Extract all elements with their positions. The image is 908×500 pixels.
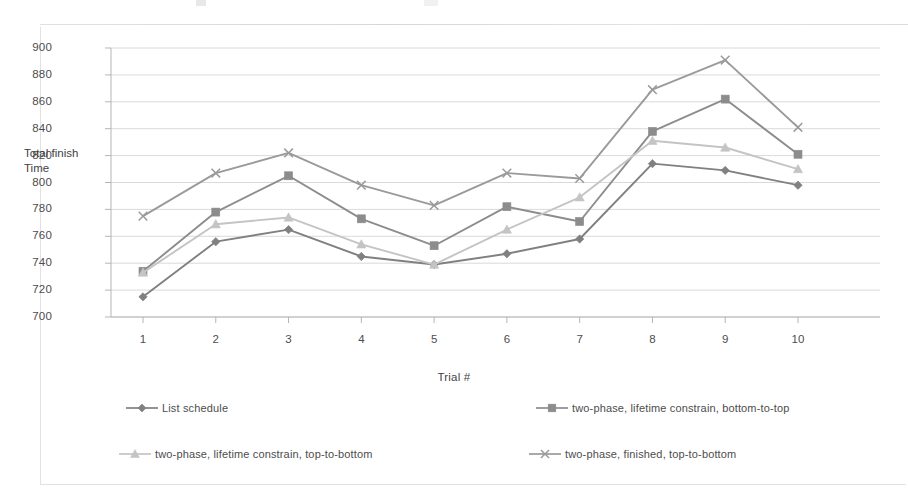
legend-item-3[interactable]: two-phase, finished, top-to-bottom bbox=[528, 448, 736, 460]
x-tick-label: 9 bbox=[705, 333, 745, 345]
data-point-square bbox=[548, 404, 556, 412]
data-point-diamond bbox=[357, 252, 365, 260]
legend-item-0[interactable]: List schedule bbox=[125, 402, 228, 414]
data-point-square bbox=[212, 208, 220, 216]
x-tick-label: 8 bbox=[632, 333, 672, 345]
series-line bbox=[143, 141, 798, 273]
series-line bbox=[143, 99, 798, 271]
data-point-square bbox=[503, 203, 511, 211]
chart-page: 700720740760780800820840860880900 123456… bbox=[0, 0, 908, 500]
series-3 bbox=[139, 56, 803, 221]
series-line bbox=[143, 164, 798, 297]
legend-label: two-phase, lifetime constrain, bottom-to… bbox=[569, 402, 790, 414]
gridlines bbox=[111, 48, 880, 317]
x-tick-label: 3 bbox=[269, 333, 309, 345]
data-point-diamond bbox=[284, 225, 292, 233]
legend-label: two-phase, finished, top-to-bottom bbox=[562, 448, 736, 460]
data-point-cross bbox=[139, 212, 148, 221]
series-line bbox=[143, 60, 798, 216]
legend-item-1[interactable]: two-phase, lifetime constrain, bottom-to… bbox=[535, 402, 790, 414]
y-axis-title-line1: Total finish bbox=[24, 146, 102, 161]
data-point-square bbox=[648, 127, 656, 135]
x-tick-label: 1 bbox=[123, 333, 163, 345]
data-point-diamond bbox=[138, 404, 146, 412]
x-axis-title: Trial # bbox=[0, 371, 908, 383]
y-tick-label: 800 bbox=[8, 176, 52, 188]
y-tick-label: 740 bbox=[8, 256, 52, 268]
series-0 bbox=[139, 159, 802, 301]
data-point-square bbox=[576, 218, 584, 226]
x-tick-label: 10 bbox=[778, 333, 818, 345]
x-tick-label: 2 bbox=[196, 333, 236, 345]
data-point-square bbox=[721, 95, 729, 103]
y-axis-title: Total finish Time bbox=[24, 146, 102, 176]
x-tick-label: 7 bbox=[560, 333, 600, 345]
data-point-diamond bbox=[503, 250, 511, 258]
y-tick-label: 900 bbox=[8, 41, 52, 53]
legend-item-2[interactable]: two-phase, lifetime constrain, top-to-bo… bbox=[118, 448, 373, 460]
data-point-square bbox=[794, 150, 802, 158]
x-tick-label: 5 bbox=[414, 333, 454, 345]
chart-legend: List scheduletwo-phase, lifetime constra… bbox=[0, 396, 908, 486]
y-tick-marks bbox=[105, 48, 111, 317]
series-1 bbox=[139, 95, 802, 275]
y-tick-label: 780 bbox=[8, 202, 52, 214]
data-point-cross bbox=[721, 56, 730, 65]
data-point-cross bbox=[648, 85, 657, 94]
legend-key-triangle-icon bbox=[118, 448, 152, 460]
y-tick-label: 840 bbox=[8, 122, 52, 134]
y-tick-label: 880 bbox=[8, 68, 52, 80]
x-tick-marks bbox=[143, 317, 798, 323]
y-tick-label: 720 bbox=[8, 283, 52, 295]
legend-key-cross-icon bbox=[528, 448, 562, 460]
data-point-diamond bbox=[721, 166, 729, 174]
x-tick-label: 4 bbox=[341, 333, 381, 345]
data-point-cross bbox=[794, 123, 803, 132]
series-2 bbox=[138, 136, 802, 276]
x-tick-label: 6 bbox=[487, 333, 527, 345]
data-point-square bbox=[430, 242, 438, 250]
y-tick-label: 760 bbox=[8, 229, 52, 241]
y-axis-title-line2: Time bbox=[24, 161, 102, 176]
data-point-square bbox=[357, 215, 365, 223]
legend-label: two-phase, lifetime constrain, top-to-bo… bbox=[152, 448, 373, 460]
y-tick-label: 860 bbox=[8, 95, 52, 107]
series-layer bbox=[138, 56, 802, 301]
legend-label: List schedule bbox=[159, 402, 228, 414]
data-point-square bbox=[285, 172, 293, 180]
legend-key-diamond-icon bbox=[125, 402, 159, 414]
y-tick-label: 700 bbox=[8, 310, 52, 322]
legend-key-square-icon bbox=[535, 402, 569, 414]
